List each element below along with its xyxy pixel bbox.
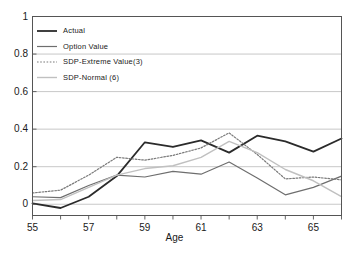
series-line-0 — [33, 136, 342, 208]
x-tick-label: 61 — [186, 222, 216, 233]
y-tick-label: 0 — [0, 198, 28, 209]
series-line-2 — [33, 133, 342, 193]
y-tick-label: 1 — [0, 11, 28, 22]
y-tick-label: 0.8 — [0, 48, 28, 59]
x-tick-label: 59 — [130, 222, 160, 233]
y-tick-label: 0.6 — [0, 86, 28, 97]
line-chart-canvas — [0, 0, 349, 262]
x-tick-label: 57 — [74, 222, 104, 233]
y-tick-label: 0.4 — [0, 123, 28, 134]
legend-label-2: SDP-Extreme Value(3) — [63, 57, 143, 66]
chart-figure: 00.20.40.60.81 555759616365 Age ActualOp… — [0, 0, 349, 262]
x-axis-title: Age — [0, 232, 349, 243]
x-tick-label: 65 — [298, 222, 328, 233]
legend-label-1: Option Value — [63, 42, 108, 51]
y-tick-label: 0.2 — [0, 161, 28, 172]
x-tick-label: 55 — [18, 222, 48, 233]
series-lines — [33, 133, 342, 208]
x-tick-label: 63 — [242, 222, 272, 233]
legend-label-0: Actual — [63, 26, 85, 35]
legend-label-3: SDP-Normal (6) — [63, 73, 119, 82]
